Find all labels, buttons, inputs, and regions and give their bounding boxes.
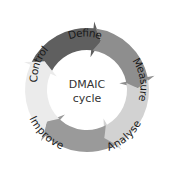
dmaic-cycle-diagram: Define Measure Analyse Improve Control D… — [0, 0, 174, 180]
center-title: DMAIC — [69, 78, 106, 91]
center-subtitle: cycle — [73, 92, 102, 105]
